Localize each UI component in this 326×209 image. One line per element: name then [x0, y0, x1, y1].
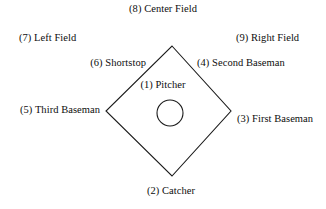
position-label-shortstop: (6) Shortstop	[90, 57, 146, 69]
position-label-pitcher: (1) Pitcher	[140, 79, 185, 91]
position-label-left-field: (7) Left Field	[19, 32, 76, 44]
position-label-third-baseman: (5) Third Baseman	[20, 104, 100, 116]
position-label-first-baseman: (3) First Baseman	[237, 113, 313, 125]
position-label-catcher: (2) Catcher	[147, 185, 195, 197]
position-label-right-field: (9) Right Field	[236, 32, 299, 44]
baseball-positions-diagram: (8) Center Field (7) Left Field (9) Righ…	[0, 0, 326, 209]
position-label-second-baseman: (4) Second Baseman	[197, 57, 285, 69]
position-label-center-field: (8) Center Field	[129, 3, 197, 15]
pitcher-mound-circle	[157, 100, 183, 126]
